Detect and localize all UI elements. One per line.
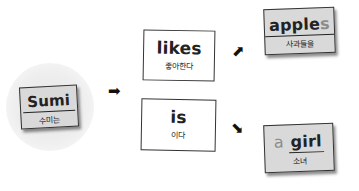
object-word-girl: girl — [288, 131, 324, 153]
verb-word-is: is — [142, 106, 215, 127]
arrow-down-right-icon: ⬊ — [231, 121, 244, 136]
object-plural-suffix: s — [320, 14, 330, 33]
subject-card: Sumi 수미는 — [19, 85, 79, 130]
object-card-apples: apples 사과들을 — [263, 7, 336, 55]
object-word-apples: apple — [269, 14, 321, 35]
object-article: a — [273, 133, 283, 152]
verb-card-likes: likes 좋아한다 — [143, 29, 216, 81]
object-meaning-apples: 사과들을 — [265, 37, 334, 50]
verb-card-is: is 이다 — [141, 98, 217, 151]
object-meaning-girl: 소녀 — [265, 154, 333, 167]
arrow-right-icon: ➡ — [108, 84, 121, 99]
subject-meaning: 수미는 — [21, 113, 77, 127]
subject-word: Sumi — [23, 91, 75, 114]
object-card-girl: a girl 소녀 — [263, 123, 335, 173]
verb-meaning-likes: 좋아한다 — [144, 59, 214, 71]
arrow-up-right-icon: ⬈ — [232, 44, 245, 59]
verb-word-likes: likes — [144, 37, 214, 58]
verb-meaning-is: 이다 — [142, 128, 215, 140]
